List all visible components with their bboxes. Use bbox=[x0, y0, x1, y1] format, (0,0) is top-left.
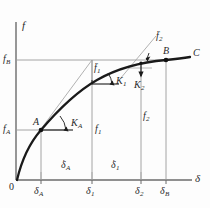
stiffness-label-K-1: K1 bbox=[116, 76, 126, 88]
span-label-delta-dot-A: ·δA bbox=[61, 160, 70, 172]
x-tick-label-delta-2: δ2 bbox=[135, 186, 143, 198]
x-tick-label-delta-A: δA bbox=[34, 186, 43, 198]
K-2-arrow-head bbox=[138, 72, 143, 78]
curve-point-label-B: B bbox=[163, 46, 169, 56]
K-A-arc bbox=[60, 116, 66, 130]
curve-point-label-C: C bbox=[193, 48, 200, 58]
K-1-arrow bbox=[110, 81, 115, 86]
dot-accent-deltaA: · bbox=[62, 156, 65, 165]
curve-point-label-A: A bbox=[33, 117, 39, 127]
secant-to-f-dot-2 bbox=[120, 36, 156, 79]
level-label-f-1: f1 bbox=[95, 124, 102, 136]
span-indicator-group bbox=[41, 172, 141, 180]
K-2-upper-arrow bbox=[146, 57, 151, 62]
K-A-arrow bbox=[64, 127, 69, 132]
rate-label-f-dot-1: ·f1 bbox=[94, 63, 101, 75]
K-2-angle-group bbox=[138, 53, 150, 78]
force-displacement-diagram: f δ 0 fB fA δA δ1 δ2 δB A B C KA K1 bbox=[0, 0, 210, 208]
level-label-f-2: f2 bbox=[143, 111, 150, 123]
point-delta2-marker bbox=[139, 61, 142, 64]
x-axis-label: δ bbox=[195, 173, 200, 184]
origin-label: 0 bbox=[9, 182, 14, 192]
diagram-canvas bbox=[0, 0, 210, 208]
span-label-delta-dot-1: ·δ1 bbox=[111, 160, 119, 172]
stiffness-label-K-A: KA bbox=[71, 118, 82, 130]
point-B-marker bbox=[164, 58, 169, 63]
y-tick-label-f-A: fA bbox=[3, 124, 10, 136]
response-curve bbox=[17, 57, 190, 180]
stiffness-label-K-2: K2 bbox=[134, 80, 144, 92]
dot-accent-f2: · bbox=[156, 27, 159, 36]
x-tick-label-delta-1: δ1 bbox=[86, 186, 94, 198]
x-tick-label-delta-B: δB bbox=[160, 186, 169, 198]
secant-A-to-delta1 bbox=[38, 60, 92, 133]
dot-accent-f1: · bbox=[94, 59, 97, 68]
rate-label-f-dot-2: ·f2 bbox=[156, 31, 163, 43]
y-tick-label-f-B: fB bbox=[3, 54, 10, 66]
y-axis-label: f bbox=[22, 20, 25, 31]
point-A-marker bbox=[39, 128, 44, 133]
dot-accent-delta1: · bbox=[112, 156, 115, 165]
